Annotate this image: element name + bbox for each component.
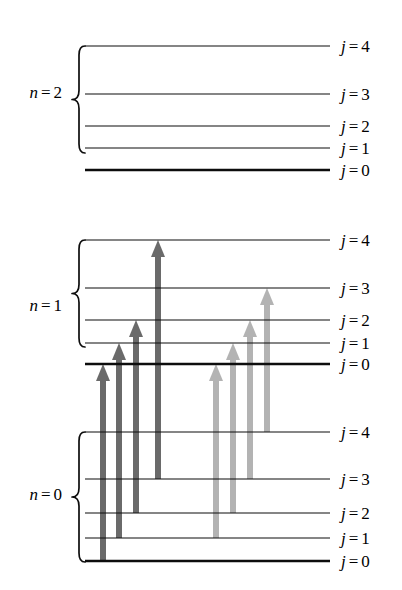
level-label-n2-j1: j=1 — [339, 139, 370, 158]
energy-level-diagram: j=4j=3j=2j=1j=0n=2j=4j=3j=2j=1j=0n=1j=4j… — [0, 0, 402, 590]
arrow-shaft — [100, 381, 106, 561]
level-label-n1-j3: j=3 — [339, 279, 370, 298]
manifold-label-n0: n=0 — [29, 485, 62, 504]
level-label-n0-j4: j=4 — [339, 423, 370, 442]
arrow-shaft — [155, 257, 161, 479]
level-label-n0-j2: j=2 — [339, 504, 370, 523]
level-label-n1-j1: j=1 — [339, 334, 370, 353]
level-label-n1-j0: j=0 — [339, 355, 370, 374]
manifold-label-n2: n=2 — [29, 83, 62, 102]
level-label-n0-j3: j=3 — [339, 470, 370, 489]
arrow-shaft — [264, 305, 270, 432]
level-label-n0-j0: j=0 — [339, 552, 370, 571]
level-label-n1-j4: j=4 — [339, 231, 370, 250]
level-label-n2-j3: j=3 — [339, 85, 370, 104]
level-label-n2-j0: j=0 — [339, 161, 370, 180]
arrow-shaft — [247, 337, 253, 479]
arrow-shaft — [213, 381, 219, 538]
level-label-n1-j2: j=2 — [339, 311, 370, 330]
manifold-label-n1: n=1 — [29, 296, 62, 315]
level-label-n0-j1: j=1 — [339, 529, 370, 548]
arrow-shaft — [116, 360, 122, 538]
level-label-n2-j2: j=2 — [339, 117, 370, 136]
arrow-shaft — [230, 360, 236, 513]
level-label-n2-j4: j=4 — [339, 37, 370, 56]
